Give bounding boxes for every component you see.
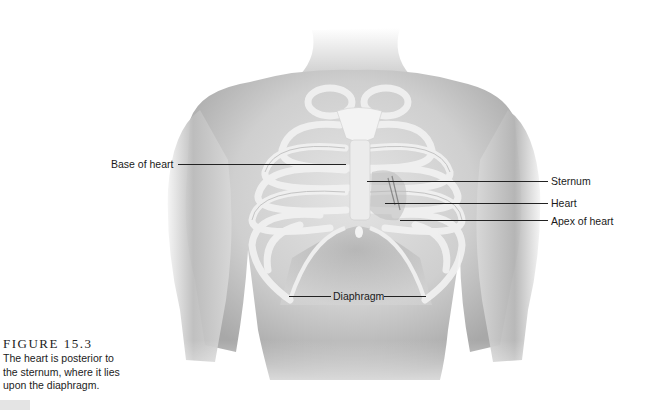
label-diaphragm: Diaphragm: [333, 290, 384, 302]
label-heart: Heart: [551, 197, 577, 209]
caption-line-2: the sternum, where it lies: [3, 366, 193, 380]
figure-number: FIGURE 15.3: [3, 336, 193, 352]
page-edge-marker: [0, 400, 30, 410]
caption-line-1: The heart is posterior to: [3, 352, 193, 366]
caption-line-3: upon the diaphragm.: [3, 379, 193, 393]
leader-line-apex-of-heart: [400, 220, 548, 221]
leader-line-base-of-heart: [178, 164, 346, 165]
leader-line-diaphragm-right: [384, 296, 426, 297]
leader-line-heart: [385, 203, 548, 204]
label-base-of-heart: Base of heart: [111, 158, 173, 170]
label-apex-of-heart: Apex of heart: [551, 215, 613, 227]
anatomy-figure: Base of heart Sternum Heart Apex of hear…: [0, 0, 645, 410]
figure-caption: FIGURE 15.3 The heart is posterior to th…: [3, 336, 193, 393]
leader-line-sternum: [367, 181, 548, 182]
label-sternum: Sternum: [551, 175, 591, 187]
leader-line-diaphragm-left: [289, 296, 331, 297]
